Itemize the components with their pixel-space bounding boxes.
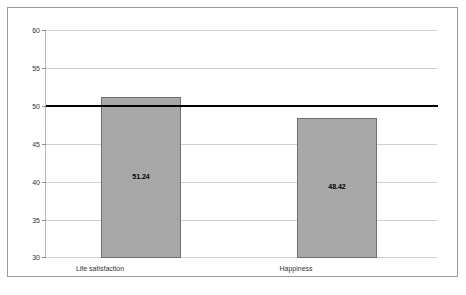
y-tick-mark-45	[42, 144, 46, 145]
y-axis-label-40: 40	[20, 179, 40, 186]
gridline-60	[46, 30, 437, 31]
x-axis-label-life-satisfaction: Life satisfaction	[60, 265, 140, 272]
y-axis-label-45: 45	[20, 141, 40, 148]
bar-value-happiness: 48.42	[297, 183, 377, 190]
gridline-55	[46, 68, 437, 69]
y-tick-mark-40	[42, 182, 46, 183]
y-tick-mark-30	[42, 257, 46, 258]
y-axis-label-60: 60	[20, 27, 40, 34]
x-axis-label-happiness: Happiness	[256, 265, 336, 272]
y-axis-label-50: 50	[20, 103, 40, 110]
y-tick-mark-55	[42, 68, 46, 69]
y-axis-label-55: 55	[20, 65, 40, 72]
y-tick-mark-60	[42, 30, 46, 31]
y-axis-label-35: 35	[20, 217, 40, 224]
y-axis-label-30: 30	[20, 254, 40, 261]
reference-line-50	[46, 105, 438, 107]
y-tick-mark-35	[42, 220, 46, 221]
bar-value-life-satisfaction: 51.24	[101, 173, 181, 180]
chart-plot-area: 51.24 48.42	[45, 30, 437, 258]
